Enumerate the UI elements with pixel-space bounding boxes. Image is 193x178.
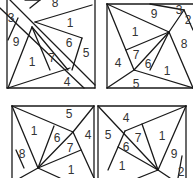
region-number-label: 9: [13, 35, 20, 49]
region-number-label: 9: [151, 7, 158, 21]
region-number-label: 5: [83, 46, 90, 60]
edge-line: [35, 22, 82, 38]
region-number-label: 8: [52, 0, 59, 10]
region-number-label: 1: [31, 124, 38, 138]
edge-line: [142, 124, 158, 170]
region-number-label: 1: [159, 129, 166, 143]
edge-line: [38, 168, 60, 178]
region-number-label: 6: [123, 140, 130, 154]
puzzle-panel-bottom-right: 45716912: [98, 106, 186, 178]
region-number-label: 1: [68, 163, 75, 177]
region-number-label: 8: [181, 37, 188, 51]
edge-line: [10, 0, 95, 85]
region-number-label: 2: [185, 13, 192, 27]
region-number-label: 5: [133, 77, 140, 91]
edge-line: [72, 38, 82, 70]
region-number-label: 2: [178, 165, 185, 178]
puzzle-canvas: 8319651749321876415516478145716912: [0, 0, 193, 178]
region-number-label: 7: [67, 141, 74, 155]
region-number-label: 1: [119, 159, 126, 173]
edge-line: [107, 70, 134, 88]
region-number-label: 4: [123, 111, 130, 125]
edge-line: [138, 170, 158, 178]
region-number-label: 4: [64, 75, 71, 89]
region-number-label: 8: [19, 147, 26, 161]
region-number-label: 7: [133, 48, 140, 62]
region-number-label: 6: [54, 131, 61, 145]
region-number-label: 3: [176, 3, 183, 17]
region-number-label: 5: [105, 128, 112, 142]
puzzle-panel-top-right: 9321876415: [107, 3, 193, 91]
edge-line: [8, 68, 70, 88]
edge-line: [30, 0, 40, 8]
region-number-label: 4: [115, 56, 122, 70]
region-number-label: 4: [85, 128, 92, 142]
region-number-label: 1: [132, 25, 139, 39]
region-number-label: 1: [67, 16, 74, 30]
region-number-label: 6: [145, 57, 152, 71]
edge-line: [35, 5, 92, 22]
region-number-label: 1: [164, 64, 171, 78]
edge-line: [158, 170, 170, 178]
region-number-label: 7: [49, 51, 56, 65]
region-number-label: 7: [135, 131, 142, 145]
region-number-label: 1: [29, 55, 36, 69]
region-number-label: 5: [66, 107, 73, 121]
edge-line: [20, 168, 38, 178]
puzzle-panel-top-left: 831965174: [0, 0, 95, 89]
puzzle-panel-bottom-left: 5164781: [12, 106, 94, 178]
region-number-label: 9: [171, 147, 178, 161]
region-number-label: 3: [8, 11, 15, 25]
region-number-label: 6: [66, 36, 73, 50]
